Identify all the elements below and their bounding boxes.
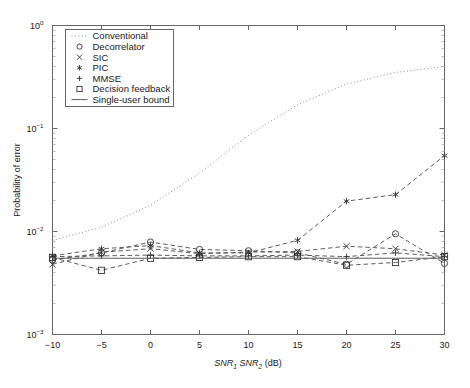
x-tick-label: 25 [390, 340, 400, 350]
legend-label: MMSE [93, 73, 122, 84]
x-tick-label: −5 [96, 340, 106, 350]
legend-label: Single-user bound [93, 94, 170, 105]
x-tick-label: 15 [292, 340, 302, 350]
y-axis-title-text: Probability of error [12, 143, 22, 217]
x-tick-label: −10 [45, 340, 60, 350]
x-axis-title-unit: (dB) [265, 358, 282, 368]
legend-label: Conventional [93, 30, 148, 41]
x-axis-title: SNR1 SNR2 (dB) [214, 358, 281, 370]
legend-label: Decorrelator [93, 41, 145, 52]
chart-legend: ConventionalDecorrelatorSICPICMMSEDecisi… [66, 30, 174, 107]
x-tick-label: 20 [341, 340, 351, 350]
legend-label: SIC [93, 52, 109, 63]
legend-label: PIC [93, 62, 109, 73]
y-axis-title: Probability of error [12, 143, 22, 217]
probability-of-error-chart: −10−5051015202530 10010−110−210−3 Probab… [0, 0, 470, 388]
x-axis-title-snr2: SNR [239, 358, 259, 368]
x-tick-label: 30 [439, 340, 449, 350]
x-tick-label: 5 [197, 340, 202, 350]
x-axis-title-snr1: SNR [214, 358, 234, 368]
legend-label: Decision feedback [93, 83, 171, 94]
svg-text:SNR1 SNR2 (dB): SNR1 SNR2 (dB) [214, 358, 281, 370]
x-tick-label: 10 [243, 340, 253, 350]
x-tick-label: 0 [148, 340, 153, 350]
